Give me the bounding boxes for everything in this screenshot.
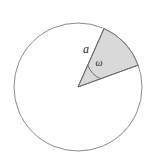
circle-sector-diagram: a ω xyxy=(0,0,152,165)
geometry-figure: a ω xyxy=(0,0,152,165)
angle-label: ω xyxy=(95,57,102,68)
shaded-sector xyxy=(78,29,138,87)
radius-label: a xyxy=(83,42,89,56)
